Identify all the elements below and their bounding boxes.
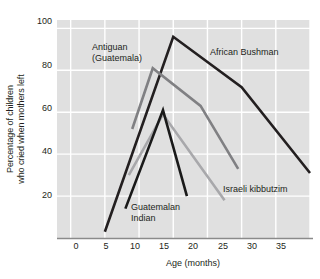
- x-tick-label-0: 0: [66, 241, 86, 251]
- x-tick-label-35: 35: [271, 241, 291, 251]
- series-label-israeli-kibbutzim: Israeli kibbutzim: [223, 184, 288, 195]
- line-chart-canvas: [0, 0, 320, 279]
- series-label-antiguan-line1: Antiguan: [92, 42, 128, 52]
- x-tick-label-20: 20: [183, 241, 203, 251]
- y-axis-title: Percentage of children who cried when mo…: [5, 29, 27, 229]
- series-label-guatemalan-indian: Guatemalan Indian: [131, 202, 180, 224]
- x-tick-label-30: 30: [242, 241, 262, 251]
- series-label-guatemalan-indian-line2: Indian: [131, 213, 156, 223]
- x-tick-label-5: 5: [96, 241, 116, 251]
- series-label-guatemalan-indian-line1: Guatemalan: [131, 202, 180, 212]
- series-label-african-bushman: African Bushman: [210, 47, 279, 58]
- y-tick-label-60: 60: [30, 103, 52, 113]
- y-tick-label-40: 40: [30, 146, 52, 156]
- x-axis-title: Age (months): [76, 258, 310, 268]
- series-label-antiguan-line2: (Guatemala): [92, 53, 142, 63]
- x-tick-label-15: 15: [154, 241, 174, 251]
- y-axis-title-line2: who cried when mothers left: [16, 74, 26, 183]
- y-tick-label-80: 80: [30, 60, 52, 70]
- x-tick-label-10: 10: [125, 241, 145, 251]
- chart-figure: 100 80 60 40 20 0 5 10 15 20 25 30 35 Pe…: [0, 0, 320, 279]
- x-tick-label-25: 25: [213, 241, 233, 251]
- y-tick-label-20: 20: [30, 190, 52, 200]
- y-tick-label-100: 100: [30, 16, 52, 26]
- series-label-antiguan: Antiguan (Guatemala): [92, 42, 142, 64]
- y-axis-title-line1: Percentage of children: [5, 85, 15, 173]
